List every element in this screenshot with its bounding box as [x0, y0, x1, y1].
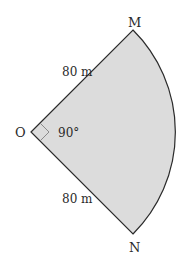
radius-label-on: 80 m [62, 192, 93, 206]
sector-diagram: O M N 80 m 80 m 90° [0, 0, 184, 264]
radius-label-om: 80 m [62, 65, 93, 79]
sector-shape [31, 30, 175, 234]
point-label-m: M [128, 15, 141, 30]
angle-label: 90° [58, 126, 79, 140]
point-label-o: O [15, 125, 26, 140]
point-label-n: N [129, 240, 140, 255]
